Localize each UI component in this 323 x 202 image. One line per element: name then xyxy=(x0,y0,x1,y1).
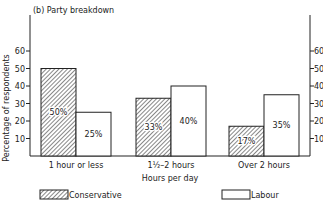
x-tick-label: 1½–2 hours xyxy=(148,161,195,170)
bar-value-label: 40% xyxy=(180,117,198,126)
bar-value-label: 25% xyxy=(85,130,103,139)
legend-label-labour: Labour xyxy=(251,191,279,200)
bar-value-label: 33% xyxy=(145,123,163,132)
y-tick-label-right: 60 xyxy=(314,47,323,56)
y-tick-label-left: 40 xyxy=(15,82,25,91)
legend-swatch-conservative xyxy=(40,190,68,199)
legend-label-conservative: Conservative xyxy=(69,191,122,200)
bar-value-label: 50% xyxy=(50,108,68,117)
y-tick-label-left: 60 xyxy=(15,47,25,56)
party-breakdown-chart: (b) Party breakdown101020203030404050506… xyxy=(0,0,323,202)
y-tick-label-left: 20 xyxy=(15,117,25,126)
y-tick-label-right: 20 xyxy=(314,117,323,126)
y-tick-label-right: 40 xyxy=(314,82,323,91)
bar-value-label: 35% xyxy=(273,121,291,130)
legend-swatch-labour xyxy=(222,190,250,199)
x-axis-label: Hours per day xyxy=(142,174,199,183)
y-tick-label-right: 50 xyxy=(314,65,323,74)
chart-title: (b) Party breakdown xyxy=(33,6,114,15)
y-tick-label-left: 10 xyxy=(15,135,25,144)
x-tick-label: 1 hour or less xyxy=(49,161,104,170)
y-tick-label-right: 10 xyxy=(314,135,323,144)
y-tick-label-right: 30 xyxy=(314,100,323,109)
y-tick-label-left: 30 xyxy=(15,100,25,109)
y-axis-label: Percentage of respondents xyxy=(2,54,11,161)
bar-value-label: 17% xyxy=(238,137,256,146)
x-tick-label: Over 2 hours xyxy=(238,161,290,170)
y-tick-label-left: 50 xyxy=(15,65,25,74)
